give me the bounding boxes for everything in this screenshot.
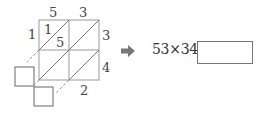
top-digit-2: 3	[79, 5, 87, 20]
blank-box-bottom[interactable]	[34, 87, 53, 106]
right-digit-1: 3	[102, 28, 110, 43]
dashed-extension	[27, 50, 39, 62]
diagonal-line	[69, 50, 99, 80]
left-carry-digit: 1	[28, 27, 36, 42]
bottom-digit: 2	[80, 83, 88, 98]
answer-box[interactable]	[197, 41, 253, 64]
blank-box-left[interactable]	[15, 67, 34, 86]
top-digit-1: 5	[49, 5, 57, 20]
right-arrow-icon	[121, 45, 135, 57]
cell-tens-digit: 1	[44, 22, 52, 37]
cell-ones-digit: 5	[56, 35, 64, 50]
right-digit-2: 4	[102, 60, 110, 75]
dashed-extension	[55, 80, 69, 94]
